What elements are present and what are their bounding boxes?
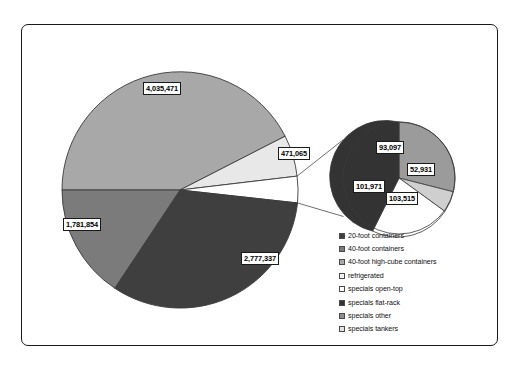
legend-label: 40-foot high-cube containers bbox=[348, 258, 437, 266]
legend-item-specials-tankers[interactable]: specials tankers bbox=[339, 323, 489, 336]
legend-label: specials open-top bbox=[348, 285, 403, 293]
legend-item-specials-flat-rack[interactable]: specials flat-rack bbox=[339, 296, 489, 309]
main-pie bbox=[62, 72, 298, 308]
legend-swatch-icon bbox=[339, 286, 345, 292]
legend-label: 40-foot containers bbox=[348, 245, 404, 253]
data-label-refrigerated: 471,065 bbox=[278, 147, 310, 160]
legend-swatch-icon bbox=[339, 259, 345, 265]
legend-item-specials-open-top[interactable]: specials open-top bbox=[339, 283, 489, 296]
legend-label: refrigerated bbox=[348, 272, 384, 280]
data-label-40ft-high-cube: 4,035,471 bbox=[143, 82, 181, 95]
data-label-specials-flat-rack: 101,971 bbox=[353, 180, 385, 193]
legend-swatch-icon bbox=[339, 300, 345, 306]
legend-swatch-icon bbox=[339, 246, 345, 252]
legend-swatch-icon bbox=[339, 326, 345, 332]
legend-swatch-icon bbox=[339, 273, 345, 279]
legend-swatch-icon bbox=[339, 233, 345, 239]
detail-pie bbox=[330, 120, 455, 237]
legend-item-40-foot-containers[interactable]: 40-foot containers bbox=[339, 242, 489, 255]
legend-item-specials-other[interactable]: specials other bbox=[339, 309, 489, 322]
legend-label: specials flat-rack bbox=[348, 299, 400, 307]
legend-label: specials other bbox=[348, 312, 391, 320]
data-label-specials-open-top: 93,097 bbox=[376, 141, 404, 154]
data-label-40ft: 1,781,854 bbox=[63, 218, 101, 231]
legend-swatch-icon bbox=[339, 313, 345, 319]
legend-label: specials tankers bbox=[348, 325, 398, 333]
data-label-specials-other: 103,515 bbox=[386, 192, 418, 205]
chart-legend: 20-foot containers 40-foot containers 40… bbox=[339, 229, 489, 336]
legend-item-40-foot-high-cube-containers[interactable]: 40-foot high-cube containers bbox=[339, 256, 489, 269]
legend-label: 20-foot containers bbox=[348, 232, 404, 240]
legend-item-refrigerated[interactable]: refrigerated bbox=[339, 269, 489, 282]
legend-item-20-foot-containers[interactable]: 20-foot containers bbox=[339, 229, 489, 242]
data-label-specials-tankers: 52,931 bbox=[407, 163, 435, 176]
data-label-20ft: 2,777,337 bbox=[241, 252, 279, 265]
